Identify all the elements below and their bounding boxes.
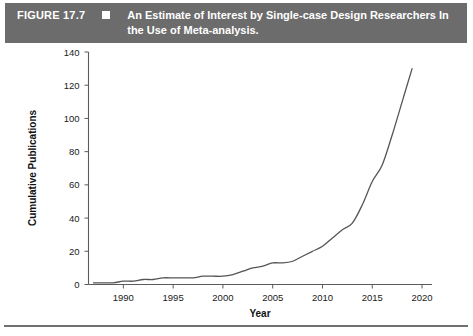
y-tick-label: 140 — [64, 47, 80, 58]
figure-number-label: FIGURE 17.7 — [17, 8, 85, 23]
y-tick-label: 100 — [64, 113, 80, 124]
x-tick-label: 2010 — [312, 292, 333, 303]
cumulative-publications-line — [93, 69, 412, 283]
y-tick-label: 60 — [69, 179, 80, 190]
x-tick-label: 1990 — [113, 292, 134, 303]
x-axis-ticks: 1990199520002005201020152020 — [113, 285, 433, 303]
y-axis-title: Cumulative Publications — [27, 109, 38, 226]
x-tick-label: 2000 — [212, 292, 233, 303]
chart-plot-area: 020406080100120140 199019952000200520102… — [0, 43, 473, 323]
figure-container: FIGURE 17.7 An Estimate of Interest by S… — [0, 0, 473, 336]
x-tick-label: 1995 — [163, 292, 184, 303]
line-chart-svg: 020406080100120140 199019952000200520102… — [0, 43, 473, 323]
figure-caption-bar: FIGURE 17.7 An Estimate of Interest by S… — [5, 3, 467, 43]
figure-caption-text: An Estimate of Interest by Single-case D… — [127, 8, 457, 37]
y-tick-label: 120 — [64, 80, 80, 91]
x-tick-label: 2020 — [411, 292, 432, 303]
square-bullet-icon — [102, 11, 110, 19]
figure-caption-inner: FIGURE 17.7 An Estimate of Interest by S… — [17, 8, 457, 37]
bottom-divider — [4, 325, 468, 327]
y-tick-label: 40 — [69, 213, 80, 224]
y-tick-label: 0 — [74, 279, 79, 290]
y-axis-ticks: 020406080100120140 — [64, 47, 89, 291]
x-tick-label: 2005 — [262, 292, 283, 303]
x-axis-title: Year — [249, 308, 270, 319]
x-tick-label: 2015 — [362, 292, 383, 303]
y-tick-label: 20 — [69, 246, 80, 257]
y-tick-label: 80 — [69, 146, 80, 157]
